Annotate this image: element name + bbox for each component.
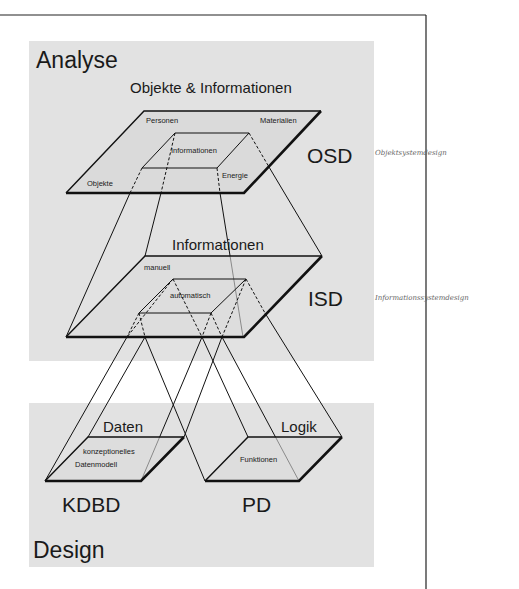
kdbd-inner-label-line2: Datenmodell — [75, 460, 117, 469]
isd-inner-label: automatisch — [170, 291, 210, 300]
osd-abbrev: OSD — [307, 144, 353, 167]
design-label: Design — [33, 537, 105, 563]
isd-label-manuell: manuell — [144, 263, 171, 272]
analysis-label: Analyse — [36, 47, 118, 73]
osd-inner-label: Informationen — [171, 146, 217, 155]
osd-handwritten-note: Objektsystemdesign — [375, 149, 447, 157]
isd-heading: Informationen — [172, 236, 264, 253]
pd-abbrev: PD — [242, 493, 271, 516]
kdbd-abbrev: KDBD — [62, 493, 120, 516]
pd-heading: Logik — [281, 418, 317, 435]
isd-abbrev: ISD — [308, 287, 343, 310]
osd-label-objekte: Objekte — [87, 179, 113, 188]
osd-label-materialien: Materialien — [260, 116, 297, 125]
isd-handwritten-note: Informationssystemdesign — [374, 294, 469, 302]
pd-inner-label: Funktionen — [240, 455, 277, 464]
kdbd-inner-label-line1: konzeptionelles — [83, 447, 135, 456]
kdbd-heading: Daten — [103, 418, 143, 435]
osd-heading: Objekte & Informationen — [130, 79, 292, 96]
osd-label-personen: Personen — [146, 116, 178, 125]
osd-label-energie: Energie — [222, 171, 248, 180]
layer-diagram: Analyse Design Objekte & Informationen P… — [0, 0, 519, 589]
